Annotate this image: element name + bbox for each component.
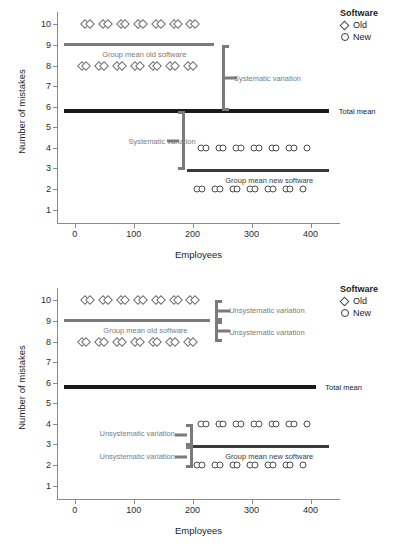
data-point-old xyxy=(85,295,95,305)
diamond-icon xyxy=(340,296,350,306)
plot-area-top: 123456789100100200300400Group mean old s… xyxy=(57,12,340,224)
x-axis-tick-label: 200 xyxy=(185,505,200,515)
y-axis-tick xyxy=(53,486,57,487)
x-axis-title-bottom: Employees xyxy=(57,525,340,536)
plot-area-bottom: 123456789100100200300400Group mean old s… xyxy=(57,288,340,500)
y-axis-tick-label: 3 xyxy=(46,163,51,173)
bracket-cap-top xyxy=(186,446,193,449)
annotation-label: Total mean xyxy=(325,382,362,391)
circle-icon xyxy=(341,309,349,317)
y-axis-tick xyxy=(53,383,57,384)
y-axis-tick xyxy=(53,362,57,363)
annotation-label: Unsystematic variation xyxy=(229,305,304,314)
data-point-old xyxy=(103,295,113,305)
circle-icon xyxy=(340,33,349,41)
annotation-label: Unsystematic variation xyxy=(99,451,174,460)
y-axis-tick-label: 8 xyxy=(46,337,51,347)
y-axis-tick-label: 6 xyxy=(46,102,51,112)
x-axis-tick xyxy=(193,500,194,504)
data-point-new xyxy=(252,186,259,193)
data-point-new xyxy=(199,462,206,469)
data-point-new xyxy=(291,144,298,151)
x-axis-tick-label: 400 xyxy=(303,229,318,239)
annotation-label: Systematic variation xyxy=(234,73,301,82)
x-axis-tick-label: 200 xyxy=(185,229,200,239)
x-axis-tick xyxy=(75,500,76,504)
data-point-old xyxy=(156,295,166,305)
y-axis-tick xyxy=(53,189,57,190)
y-axis-tick-label: 9 xyxy=(46,316,51,326)
y-axis-tick-label: 6 xyxy=(46,378,51,388)
legend-item-new: New xyxy=(340,31,378,43)
data-point-new xyxy=(287,462,294,469)
x-axis-tick xyxy=(311,500,312,504)
y-axis-tick xyxy=(53,300,57,301)
data-point-old xyxy=(85,19,95,29)
x-axis-tick-label: 0 xyxy=(72,229,77,239)
bracket-cap-bottom xyxy=(178,167,185,170)
data-point-new xyxy=(234,186,241,193)
bracket-cap-top xyxy=(186,424,193,427)
y-axis-tick-label: 3 xyxy=(46,439,51,449)
data-point-old xyxy=(138,19,148,29)
x-axis-tick xyxy=(311,224,312,228)
legend-bottom: SoftwareOldNew xyxy=(340,284,378,319)
data-point-new xyxy=(303,420,310,427)
y-axis-tick-label: 2 xyxy=(46,184,51,194)
data-point-new xyxy=(255,144,262,151)
diamond-icon xyxy=(340,20,350,30)
data-point-new xyxy=(300,186,307,193)
annotation-label: Group mean new software xyxy=(225,175,313,184)
bracket-cap-bottom xyxy=(215,339,222,342)
data-point-new xyxy=(216,186,223,193)
y-axis-tick xyxy=(53,424,57,425)
data-point-new xyxy=(252,462,259,469)
chart-panel-systematic: 123456789100100200300400Group mean old s… xyxy=(0,0,407,275)
x-axis-tick-label: 400 xyxy=(303,505,318,515)
reference-line-old xyxy=(64,43,214,46)
y-axis-tick-label: 1 xyxy=(46,205,51,215)
data-point-old xyxy=(190,295,200,305)
y-axis-tick-label: 4 xyxy=(46,419,51,429)
data-point-new xyxy=(269,186,276,193)
data-point-new xyxy=(202,420,209,427)
diamond-icon xyxy=(340,22,349,29)
x-axis-line xyxy=(57,223,340,224)
y-axis-line xyxy=(57,12,58,224)
diamond-icon xyxy=(340,298,349,305)
y-axis-tick xyxy=(53,107,57,108)
data-point-new xyxy=(255,420,262,427)
legend-item-new: New xyxy=(340,307,378,319)
x-axis-tick-label: 100 xyxy=(126,505,141,515)
y-axis-tick-label: 7 xyxy=(46,357,51,367)
x-axis-tick xyxy=(252,500,253,504)
bracket-arm xyxy=(175,456,187,459)
y-axis-tick xyxy=(53,444,57,445)
y-axis-tick-label: 1 xyxy=(46,481,51,491)
legend-top: SoftwareOldNew xyxy=(340,8,378,43)
bracket-cap-bottom xyxy=(222,108,229,111)
annotation-label: Unsystematic variation xyxy=(99,429,174,438)
y-axis-tick xyxy=(53,403,57,404)
annotation-label: Total mean xyxy=(339,106,376,115)
data-point-new xyxy=(202,144,209,151)
bracket-cap-top xyxy=(178,111,185,114)
y-axis-tick-label: 10 xyxy=(41,19,51,29)
circle-icon xyxy=(340,309,349,317)
x-axis-tick-label: 300 xyxy=(244,229,259,239)
y-axis-tick xyxy=(53,127,57,128)
circle-icon xyxy=(341,33,349,41)
data-point-new xyxy=(287,186,294,193)
y-axis-tick xyxy=(53,45,57,46)
y-axis-tick xyxy=(53,86,57,87)
y-axis-tick xyxy=(53,342,57,343)
y-axis-tick xyxy=(53,168,57,169)
y-axis-tick-label: 7 xyxy=(46,81,51,91)
data-point-new xyxy=(237,144,244,151)
data-point-new xyxy=(220,144,227,151)
reference-line-new xyxy=(187,445,330,448)
y-axis-tick-label: 2 xyxy=(46,460,51,470)
y-axis-tick-label: 10 xyxy=(41,295,51,305)
legend-item-label: New xyxy=(353,307,371,319)
x-axis-tick xyxy=(252,224,253,228)
